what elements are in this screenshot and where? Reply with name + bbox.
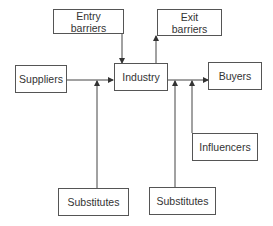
exit-barriers-box: Exit barriers xyxy=(157,9,222,36)
buyers-box: Buyers xyxy=(208,62,262,90)
suppliers-box: Suppliers xyxy=(15,65,67,93)
influencers-label: Influencers xyxy=(199,141,250,153)
substitutes-right-box: Substitutes xyxy=(149,187,216,215)
entry-barriers-line2: barriers xyxy=(71,22,107,34)
industry-label: Industry xyxy=(122,71,159,83)
exit-barriers-line2: barriers xyxy=(172,23,208,35)
suppliers-label: Suppliers xyxy=(19,73,63,85)
influencers-box: Influencers xyxy=(192,133,258,161)
diagram-edges xyxy=(0,0,273,226)
entry-barriers-line1: Entry xyxy=(76,10,101,22)
substitutes-left-label: Substitutes xyxy=(68,196,120,208)
industry-box: Industry xyxy=(114,63,168,91)
buyers-label: Buyers xyxy=(219,70,252,82)
substitutes-left-box: Substitutes xyxy=(58,188,129,216)
substitutes-right-label: Substitutes xyxy=(157,195,209,207)
entry-barriers-box: Entry barriers xyxy=(53,9,124,34)
exit-barriers-line1: Exit xyxy=(181,11,199,23)
